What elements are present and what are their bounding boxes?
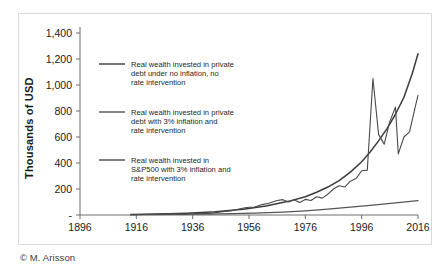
x-axis-tick-label: 1956 — [237, 221, 261, 233]
chart-figure: Thousands of USD -2004006008001,0001,200… — [0, 0, 445, 278]
x-axis-tick-label: 1916 — [125, 221, 149, 233]
y-axis-tick-label: 1,400 — [46, 27, 72, 39]
y-axis-tick-label: 800 — [54, 105, 72, 117]
y-axis-tick-label: 600 — [54, 131, 72, 143]
legend-label-1: Real wealth invested in private — [131, 60, 234, 69]
legend-label-2: rate intervention — [131, 126, 185, 135]
y-axis-tick-label: - — [69, 209, 73, 221]
x-axis-tick-label: 2016 — [406, 221, 430, 233]
legend-label-2: Real wealth invested in private — [131, 108, 234, 117]
chart-plot-area: -2004006008001,0001,2001,400189619161936… — [0, 0, 445, 278]
x-axis-tick-label: 1896 — [68, 221, 92, 233]
y-axis-tick-label: 400 — [54, 157, 72, 169]
legend-label-3: Real wealth invested in — [131, 156, 209, 165]
legend-label-1: debt under no inflation, no — [131, 69, 219, 78]
y-axis-tick-label: 200 — [54, 183, 72, 195]
x-axis-tick-label: 1976 — [294, 221, 318, 233]
legend-label-3: rate intervention — [131, 174, 185, 183]
y-axis-tick-label: 1,200 — [46, 53, 72, 65]
legend-label-3: S&P500 with 3% inflation and — [131, 165, 231, 174]
x-axis-tick-label: 1996 — [350, 221, 374, 233]
chart-caption: © M. Arisson — [20, 252, 75, 263]
series-line-2 — [131, 201, 418, 215]
legend-label-2: debt with 3% inflation and — [131, 117, 218, 126]
y-axis-tick-label: 1,000 — [46, 79, 72, 91]
legend-label-1: rate intervention — [131, 78, 185, 87]
x-axis-tick-label: 1936 — [181, 221, 205, 233]
